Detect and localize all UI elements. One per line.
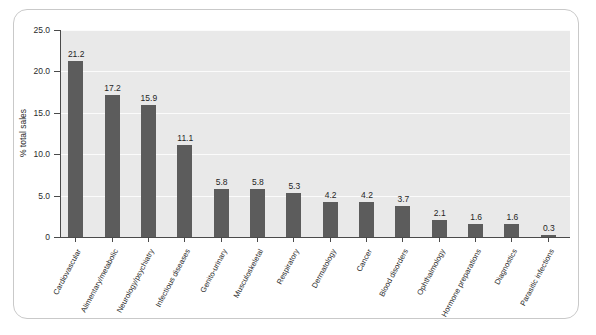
- bar-value-label: 1.6: [456, 212, 496, 222]
- y-tick-label: 15.0: [33, 108, 50, 118]
- gridline: [61, 154, 570, 155]
- chart-figure: % total sales 05.010.015.020.025.0 21.21…: [0, 0, 596, 335]
- x-tick-mark: [257, 238, 258, 242]
- bar-value-label: 2.1: [420, 208, 460, 218]
- x-tick-mark: [402, 238, 403, 242]
- x-tick-mark: [439, 238, 440, 242]
- y-tick-label: 0: [45, 232, 50, 242]
- x-axis-line: [60, 237, 570, 238]
- y-axis-line: [60, 30, 61, 238]
- bar: [177, 145, 192, 237]
- x-tick-mark: [330, 238, 331, 242]
- bar: [105, 95, 120, 237]
- bar: [395, 206, 410, 237]
- bar: [504, 224, 519, 237]
- y-tick-mark: [54, 113, 61, 114]
- bar: [250, 189, 265, 237]
- y-axis-title: % total sales: [18, 88, 28, 178]
- bar-value-label: 3.7: [383, 194, 423, 204]
- y-tick-mark: [54, 154, 61, 155]
- bar-value-label: 11.1: [165, 133, 205, 143]
- bar: [468, 224, 483, 237]
- gridline: [61, 71, 570, 72]
- x-tick-mark: [548, 238, 549, 242]
- y-tick-label: 10.0: [33, 149, 50, 159]
- bar: [286, 193, 301, 237]
- bar-value-label: 21.2: [56, 49, 96, 59]
- y-tick-label: 20.0: [33, 66, 50, 76]
- bar-value-label: 5.3: [274, 181, 314, 191]
- gridline: [61, 30, 570, 31]
- x-tick-mark: [475, 238, 476, 242]
- bar: [541, 235, 556, 237]
- y-tick-mark: [54, 30, 61, 31]
- x-tick-mark: [184, 238, 185, 242]
- y-tick-label: 5.0: [38, 191, 50, 201]
- plot-area: [61, 30, 570, 237]
- bar-value-label: 4.2: [311, 190, 351, 200]
- x-tick-mark: [112, 238, 113, 242]
- x-tick-mark: [148, 238, 149, 242]
- bar: [141, 105, 156, 237]
- y-tick-mark: [54, 237, 61, 238]
- bar-value-label: 15.9: [129, 93, 169, 103]
- x-tick-mark: [366, 238, 367, 242]
- bar-value-label: 4.2: [347, 190, 387, 200]
- y-tick-label: 25.0: [33, 25, 50, 35]
- bar-value-label: 5.8: [202, 177, 242, 187]
- x-tick-mark: [511, 238, 512, 242]
- bar: [432, 220, 447, 237]
- bar-value-label: 0.3: [529, 223, 569, 233]
- x-tick-mark: [221, 238, 222, 242]
- y-tick-mark: [54, 71, 61, 72]
- bar: [68, 61, 83, 237]
- bar: [323, 202, 338, 237]
- bar-value-label: 1.6: [492, 212, 532, 222]
- bar: [359, 202, 374, 237]
- x-tick-mark: [75, 238, 76, 242]
- bar-value-label: 17.2: [93, 83, 133, 93]
- x-tick-mark: [293, 238, 294, 242]
- bar: [214, 189, 229, 237]
- bar-value-label: 5.8: [238, 177, 278, 187]
- gridline: [61, 113, 570, 114]
- y-tick-mark: [54, 196, 61, 197]
